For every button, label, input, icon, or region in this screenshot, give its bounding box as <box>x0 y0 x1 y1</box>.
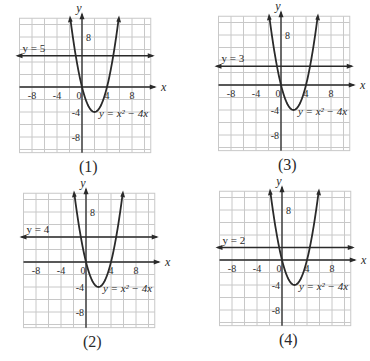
x-tick-label: -4 <box>252 88 260 99</box>
y-axis-label: y <box>274 0 281 13</box>
x-tick-label: -8 <box>28 90 36 101</box>
x-tick-label: 0 <box>77 90 82 101</box>
y-axis-label: y <box>75 1 82 15</box>
graph-panel-4: xy-8-40488-4-8y = 2y = x² − 4x(4) <box>185 180 370 360</box>
y-tick-label: -8 <box>272 305 280 316</box>
x-tick-label: -4 <box>53 90 61 101</box>
x-tick-label: -8 <box>227 88 235 99</box>
x-tick-label: -8 <box>228 263 236 274</box>
panel-caption: (4) <box>279 331 298 349</box>
panel-caption: (2) <box>83 333 102 351</box>
x-tick-label: 0 <box>81 265 86 276</box>
x-tick-label: -4 <box>57 265 65 276</box>
y-axis-label: y <box>79 176 86 190</box>
x-tick-label: 8 <box>130 90 135 101</box>
y-tick-label: 8 <box>285 30 290 41</box>
x-tick-label: -4 <box>253 263 261 274</box>
x-axis-label: x <box>360 253 367 267</box>
panel-caption: (3) <box>278 156 297 174</box>
y-tick-label: -8 <box>76 307 84 318</box>
x-tick-label: -8 <box>32 265 40 276</box>
x-tick-label: 8 <box>134 265 139 276</box>
x-axis-label: x <box>359 78 366 92</box>
line-label: y = 5 <box>23 42 46 54</box>
curve-label: y = x² − 4x <box>102 282 152 294</box>
line-label: y = 2 <box>223 234 246 246</box>
y-tick-label: -8 <box>72 132 80 143</box>
y-axis-label: y <box>275 174 282 188</box>
line-label: y = 4 <box>27 223 50 235</box>
y-tick-label: 8 <box>90 207 95 218</box>
curve-label: y = x² − 4x <box>297 105 347 117</box>
x-tick-label: 8 <box>329 88 334 99</box>
y-tick-label: 8 <box>86 32 91 43</box>
y-tick-label: -4 <box>271 105 279 116</box>
x-tick-label: 8 <box>330 263 335 274</box>
x-axis-label: x <box>164 255 171 269</box>
curve-label: y = x² − 4x <box>298 280 348 292</box>
y-tick-label: 8 <box>286 205 291 216</box>
graph-panel-1: xy-8-40488-4-8y = 5y = x² − 4x(1) <box>0 0 185 180</box>
line-label: y = 3 <box>222 52 245 64</box>
curve-label: y = x² − 4x <box>98 107 148 119</box>
x-axis-label: x <box>160 80 167 94</box>
x-tick-label: 0 <box>276 88 281 99</box>
y-tick-label: -4 <box>272 280 280 291</box>
y-tick-label: -4 <box>72 107 80 118</box>
panel-caption: (1) <box>79 158 98 176</box>
graph-panel-2: xy-8-40488-4-8y = 4y = x² − 4x(2) <box>0 180 185 360</box>
graph-panel-3: xy-8-40488-4-8y = 3y = x² − 4x(3) <box>185 0 370 180</box>
y-tick-label: -4 <box>76 282 84 293</box>
x-tick-label: 0 <box>277 263 282 274</box>
y-tick-label: -8 <box>271 130 279 141</box>
